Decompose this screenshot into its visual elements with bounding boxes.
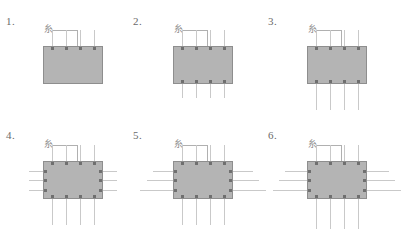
marker-leader-line: [316, 145, 341, 146]
pin-pad-top: [315, 162, 318, 165]
pin-pad-left: [308, 189, 311, 192]
pin-top: [330, 145, 331, 161]
pin-pad-right: [363, 189, 366, 192]
pin-bottom: [330, 199, 331, 229]
pin-pad-bottom: [357, 195, 360, 198]
pin-pad-bottom: [343, 195, 346, 198]
pin-right: [367, 190, 401, 191]
pin-pad-right: [363, 170, 366, 173]
pin-left: [285, 171, 307, 172]
pin-bottom: [344, 199, 345, 229]
pin-right: [367, 171, 389, 172]
pin-bottom: [358, 199, 359, 229]
pin-pad-left: [308, 179, 311, 182]
pin-left: [279, 180, 307, 181]
panel-label: 6.: [268, 130, 277, 141]
pin-pad-left: [308, 170, 311, 173]
pin-right: [367, 180, 395, 181]
pin-top: [344, 145, 345, 161]
pin-bottom: [316, 199, 317, 229]
pin-pad-bottom: [329, 195, 332, 198]
pin-top: [316, 145, 317, 161]
pin-left: [273, 190, 307, 191]
pin-pad-top: [329, 162, 332, 165]
panel-6: 6.糸: [0, 0, 402, 231]
pin-pad-right: [363, 179, 366, 182]
figure-canvas: 1.糸2.糸3.糸4.糸5.糸6.糸: [0, 0, 402, 231]
die-body: [307, 161, 367, 199]
pin-pad-bottom: [315, 195, 318, 198]
pin-top: [358, 145, 359, 161]
pin-pad-top: [357, 162, 360, 165]
pin-pad-top: [343, 162, 346, 165]
marker-leader-tick: [341, 145, 342, 161]
